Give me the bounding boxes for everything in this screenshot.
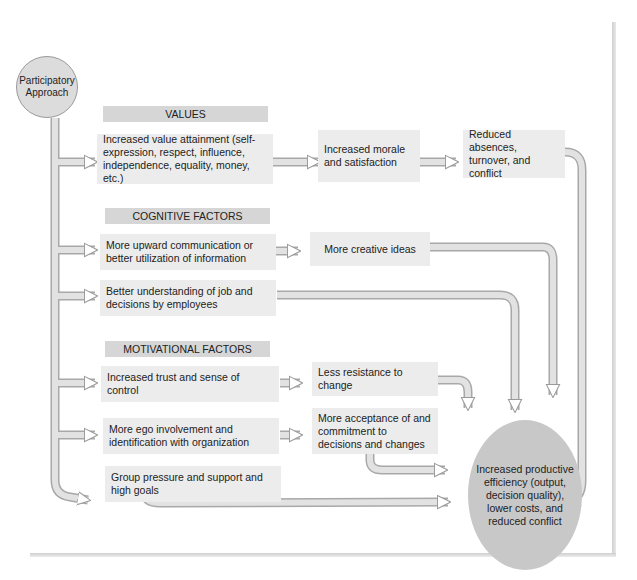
box-label: Less resistance to change — [318, 366, 432, 392]
box-creative-ideas: More creative ideas — [310, 232, 430, 266]
box-label: Increased trust and sense of control — [107, 371, 273, 397]
box-less-resistance: More acceptance of and commitment to dec… — [312, 362, 438, 396]
box-label: Better understanding of job and decision… — [106, 285, 270, 311]
box-label: Group pressure and support and high goal… — [111, 471, 275, 497]
box-ego-involvement: More ego involvement and identification … — [103, 418, 279, 454]
box-upward-communication: More upward communication or better util… — [100, 234, 276, 270]
box-label: Reduced absences, turnover, and conflict — [469, 128, 559, 180]
box-value-attainment: Increased value attainment (self-express… — [97, 134, 273, 184]
box-label: Increased morale and satisfaction — [324, 143, 414, 169]
start-node-label: Participatory Approach — [17, 75, 77, 99]
box-morale-satisfaction: Increased morale and satisfaction — [318, 130, 420, 182]
box-label: More upward communication or better util… — [106, 239, 270, 265]
box-group-pressure: Group pressure and support and high goal… — [105, 466, 281, 502]
box-label: More acceptance of and commitment to dec… — [318, 412, 432, 451]
box-label: More creative ideas — [324, 243, 416, 256]
box-more-acceptance: More acceptance of and commitment to dec… — [312, 408, 438, 454]
end-node: Increased productive efficiency (output,… — [468, 420, 582, 570]
box-better-understanding: Better understanding of job and decision… — [100, 280, 276, 316]
box-label: More ego involvement and identification … — [109, 423, 273, 449]
start-node: Participatory Approach — [16, 56, 78, 118]
box-increased-trust: Increased trust and sense of control — [101, 366, 279, 402]
box-label: Increased value attainment (self-express… — [103, 133, 267, 185]
section-header-cognitive: COGNITIVE FACTORS — [105, 208, 270, 224]
box-reduced-absences: Reduced absences, turnover, and conflict — [463, 130, 565, 178]
section-header-values: VALUES — [103, 106, 268, 122]
section-header-motivational: MOTIVATIONAL FACTORS — [105, 341, 270, 357]
end-node-label: Increased productive efficiency (output,… — [476, 463, 574, 528]
